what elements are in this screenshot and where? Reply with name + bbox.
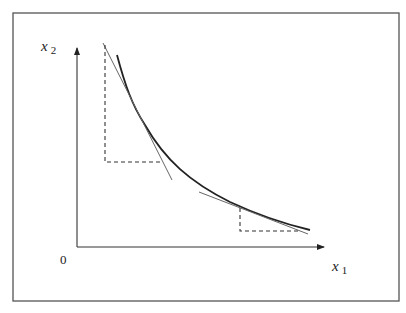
tangent-line-flat (199, 192, 308, 234)
tangent-line-steep (103, 43, 172, 180)
x-axis-label: x1 (331, 258, 347, 276)
indifference-curve (117, 55, 310, 230)
frame-border (13, 13, 399, 301)
diagram-canvas: x2 x1 0 (0, 0, 406, 313)
origin-label: 0 (60, 252, 67, 267)
y-axis-label: x2 (40, 38, 56, 56)
